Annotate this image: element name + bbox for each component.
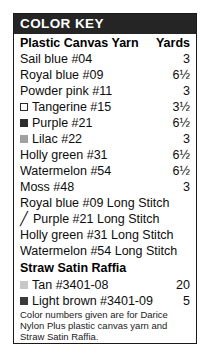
color-key-title: COLOR KEY <box>20 16 104 31</box>
color-swatch-filled <box>20 119 28 127</box>
yards-value: 5 <box>177 293 190 309</box>
long-stitch-row: Watermelon #54 Long Stitch <box>20 243 190 259</box>
column-header-yarn: Plastic Canvas Yarn <box>20 35 139 51</box>
yards-value: 6½ <box>167 115 190 131</box>
yards-value: 6½ <box>167 67 190 83</box>
yards-value: 3 <box>177 51 190 67</box>
color-name-label: Purple #21 Long Stitch <box>33 211 159 227</box>
long-stitch-row: Royal blue #09 Long Stitch <box>20 195 190 211</box>
color-name-label: Royal blue #09 Long Stitch <box>20 195 169 211</box>
color-name-label: Tan #3401-08 <box>32 277 108 293</box>
yards-value: 3 <box>177 83 190 99</box>
row-label-group: Watermelon #54 <box>20 163 111 179</box>
color-name-label: Purple #21 <box>32 115 92 131</box>
yarn-row: Powder pink #113 <box>20 83 190 99</box>
long-stitch-row: Holly green #31 Long Stitch <box>20 227 190 243</box>
plastic-canvas-yarn-list: Sail blue #043Royal blue #096½Powder pin… <box>20 51 190 195</box>
yarn-row: Purple #216½ <box>20 115 190 131</box>
yarn-row: Lilac #223 <box>20 131 190 147</box>
yarn-row: Sail blue #043 <box>20 51 190 67</box>
row-label-group: Holly green #31 <box>20 147 108 163</box>
yarn-row: Moss #483 <box>20 179 190 195</box>
row-label-group: ╱Purple #21 Long Stitch <box>20 211 159 227</box>
row-label-group: Light brown #3401-09 <box>20 293 153 309</box>
long-stitch-row: ╱Purple #21 Long Stitch <box>20 211 190 227</box>
color-key-footnote: Color numbers given are for Darice Nylon… <box>20 309 190 342</box>
straw-satin-raffia-list: Tan #3401-0820Light brown #3401-095 <box>20 277 190 309</box>
color-name-label: Watermelon #54 <box>20 163 111 179</box>
color-name-label: Light brown #3401-09 <box>32 293 153 309</box>
row-label-group: Royal blue #09 <box>20 67 103 83</box>
raffia-section-heading: Straw Satin Raffia <box>20 259 190 277</box>
color-swatch-filled <box>20 281 28 289</box>
yards-value: 6½ <box>167 147 190 163</box>
row-label-group: Lilac #22 <box>20 131 82 147</box>
raffia-row: Light brown #3401-095 <box>20 293 190 309</box>
yarn-row: Tangerine #153½ <box>20 99 190 115</box>
row-label-group: Tan #3401-08 <box>20 277 108 293</box>
yards-value: 3 <box>177 179 190 195</box>
row-label-group: Moss #48 <box>20 179 74 195</box>
color-name-label: Sail blue #04 <box>20 51 92 67</box>
row-label-group: Sail blue #04 <box>20 51 92 67</box>
yarn-row: Royal blue #096½ <box>20 67 190 83</box>
column-header-row: Plastic Canvas Yarn Yards <box>20 34 190 51</box>
yards-value: 3 <box>177 131 190 147</box>
yards-value: 20 <box>170 277 190 293</box>
row-label-group: Powder pink #11 <box>20 83 112 99</box>
color-key-header-bar: COLOR KEY <box>14 14 196 34</box>
yards-value: 6½ <box>167 163 190 179</box>
long-stitch-list: Royal blue #09 Long Stitch╱Purple #21 Lo… <box>20 195 190 259</box>
row-label-group: Royal blue #09 Long Stitch <box>20 195 169 211</box>
column-header-yards: Yards <box>156 35 190 51</box>
yards-value: 3½ <box>167 99 190 115</box>
color-name-label: Royal blue #09 <box>20 67 103 83</box>
row-label-group: Purple #21 <box>20 115 92 131</box>
yarn-row: Holly green #316½ <box>20 147 190 163</box>
color-name-label: Watermelon #54 Long Stitch <box>20 243 177 259</box>
color-key-body: Plastic Canvas Yarn Yards Sail blue #043… <box>14 34 196 342</box>
color-swatch-outline <box>20 103 28 111</box>
color-name-label: Lilac #22 <box>32 131 82 147</box>
row-label-group: Watermelon #54 Long Stitch <box>20 243 177 259</box>
color-key-panel: COLOR KEY Plastic Canvas Yarn Yards Sail… <box>13 13 197 344</box>
raffia-row: Tan #3401-0820 <box>20 277 190 293</box>
color-name-label: Moss #48 <box>20 179 74 195</box>
color-name-label: Tangerine #15 <box>32 99 111 115</box>
color-name-label: Holly green #31 Long Stitch <box>20 227 174 243</box>
yarn-row: Watermelon #546½ <box>20 163 190 179</box>
color-name-label: Powder pink #11 <box>20 83 112 99</box>
diagonal-stitch-icon: ╱ <box>20 211 29 227</box>
color-swatch-filled <box>20 297 28 305</box>
color-key-page: COLOR KEY Plastic Canvas Yarn Yards Sail… <box>0 0 212 358</box>
row-label-group: Tangerine #15 <box>20 99 111 115</box>
color-name-label: Holly green #31 <box>20 147 108 163</box>
color-swatch-filled <box>20 135 28 143</box>
row-label-group: Holly green #31 Long Stitch <box>20 227 174 243</box>
